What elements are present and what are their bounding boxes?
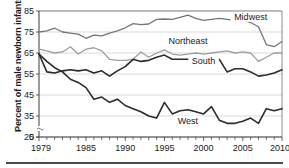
y-tick-label: 65 (24, 48, 34, 58)
y-tick-label: 75 (24, 27, 34, 37)
series-line-west (39, 54, 282, 123)
y-tick-label: 55 (24, 69, 34, 79)
x-tick-label: 1985 (76, 143, 96, 153)
x-tick-label: 1995 (154, 143, 174, 153)
series-label-midwest: Midwest (234, 12, 268, 22)
x-tick-label: 2005 (233, 143, 253, 153)
x-tick-label: 2010 (270, 143, 289, 153)
y-tick-label: 35 (24, 111, 34, 121)
axis-break-icon (37, 128, 44, 130)
line-chart-plot: 0253545556575851979198519901995200020052… (0, 0, 289, 162)
chart-figure: Percent of male newborn infants 02535455… (0, 0, 289, 168)
y-tick-label: 25 (24, 132, 34, 142)
series-label-west: West (178, 116, 199, 126)
series-line-south (39, 54, 282, 76)
x-tick-label: 1979 (31, 143, 51, 153)
x-tick-label: 2000 (194, 143, 214, 153)
y-tick-label: 85 (24, 6, 34, 16)
series-line-northeast (39, 47, 282, 62)
bottom-divider-rule (6, 162, 283, 164)
x-tick-label: 1990 (115, 143, 135, 153)
series-label-south: South (192, 56, 216, 66)
y-tick-label: 45 (24, 90, 34, 100)
series-label-northeast: Northeast (168, 36, 208, 46)
